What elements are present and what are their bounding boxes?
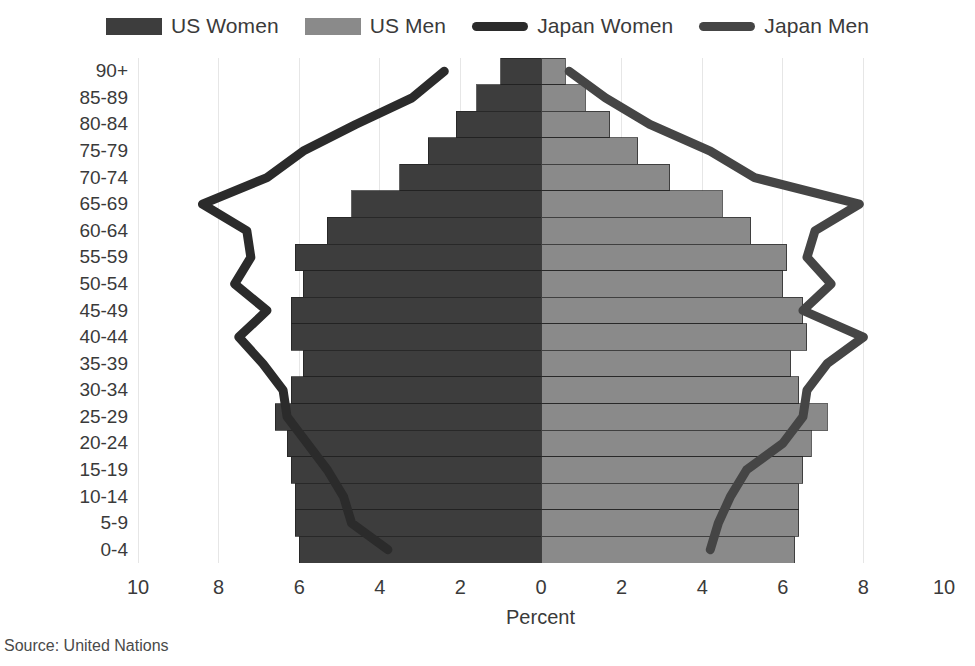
legend-swatch-line-icon <box>472 22 528 31</box>
y-axis-tick-label: 80-84 <box>34 113 128 135</box>
y-axis-labels: 90+85-8980-8475-7970-7465-6960-6455-5950… <box>34 58 128 563</box>
y-axis-tick-label: 0-4 <box>34 539 128 561</box>
y-axis-tick-label: 60-64 <box>34 220 128 242</box>
x-axis-tick-label: 8 <box>858 576 869 599</box>
bar-us-women <box>299 536 541 563</box>
y-axis-tick-label: 30-34 <box>34 379 128 401</box>
bar-us-women <box>400 164 541 191</box>
bar-us-men <box>541 58 565 85</box>
y-axis-tick-label: 90+ <box>34 60 128 82</box>
bar-us-women <box>291 297 541 324</box>
bar-us-women <box>295 244 541 271</box>
y-axis-tick-label: 45-49 <box>34 300 128 322</box>
bar-us-men <box>541 324 807 351</box>
y-axis-tick-label: 15-19 <box>34 459 128 481</box>
bar-us-women <box>477 85 541 112</box>
bar-us-men <box>541 244 787 271</box>
bar-us-women <box>303 350 541 377</box>
bar-us-men <box>541 536 795 563</box>
y-axis-tick-label: 70-74 <box>34 167 128 189</box>
legend-swatch-bar-icon <box>106 18 162 35</box>
bar-us-men <box>541 164 670 191</box>
bar-us-men <box>541 350 791 377</box>
bar-us-men <box>541 191 722 218</box>
y-axis-tick-label: 35-39 <box>34 353 128 375</box>
bar-us-men <box>541 510 799 537</box>
legend-label: Japan Women <box>537 14 673 38</box>
x-axis-title: Percent <box>0 606 975 629</box>
x-axis-title-text: Percent <box>506 606 575 628</box>
bar-us-women <box>275 404 541 431</box>
bars-group <box>275 58 827 563</box>
bar-us-men <box>541 111 610 138</box>
x-axis-tick-label: 4 <box>697 576 708 599</box>
bar-us-women <box>291 324 541 351</box>
x-axis-tick-label: 2 <box>616 576 627 599</box>
y-axis-tick-label: 50-54 <box>34 273 128 295</box>
legend-label: US Women <box>171 14 279 38</box>
chart-legend: US WomenUS MenJapan WomenJapan Men <box>0 14 975 38</box>
legend-item-us-women[interactable]: US Women <box>106 14 279 38</box>
bar-us-women <box>291 377 541 404</box>
x-axis-tick-label: 2 <box>455 576 466 599</box>
y-axis-tick-label: 65-69 <box>34 193 128 215</box>
bar-us-men <box>541 404 827 431</box>
x-axis-labels: 1086420246810 <box>0 576 975 606</box>
y-axis-tick-label: 55-59 <box>34 246 128 268</box>
bar-us-women <box>295 483 541 510</box>
bar-us-men <box>541 138 638 165</box>
bar-us-men <box>541 217 751 244</box>
bar-us-women <box>428 138 541 165</box>
y-axis-tick-label: 85-89 <box>34 87 128 109</box>
x-axis-tick-label: 8 <box>213 576 224 599</box>
y-axis-tick-label: 25-29 <box>34 406 128 428</box>
legend-item-japan-men[interactable]: Japan Men <box>699 14 869 38</box>
x-axis-tick-label: 6 <box>294 576 305 599</box>
plot-svg <box>138 58 944 563</box>
legend-swatch-line-icon <box>699 22 755 31</box>
y-axis-tick-label: 10-14 <box>34 486 128 508</box>
y-axis-tick-label: 5-9 <box>34 512 128 534</box>
bar-us-men <box>541 297 803 324</box>
bar-us-women <box>287 430 541 457</box>
bar-us-women <box>352 191 541 218</box>
bar-us-women <box>327 217 541 244</box>
legend-label: Japan Men <box>764 14 869 38</box>
legend-swatch-bar-icon <box>305 18 361 35</box>
y-axis-tick-label: 20-24 <box>34 432 128 454</box>
x-axis-tick-label: 0 <box>535 576 546 599</box>
bar-us-men <box>541 85 585 112</box>
bar-us-women <box>303 271 541 298</box>
bar-us-men <box>541 483 799 510</box>
source-note: Source: United Nations <box>4 637 169 655</box>
y-axis-tick-label: 75-79 <box>34 140 128 162</box>
x-axis-tick-label: 10 <box>127 576 149 599</box>
plot-area <box>138 58 944 563</box>
legend-item-us-men[interactable]: US Men <box>305 14 446 38</box>
bar-us-women <box>295 510 541 537</box>
legend-item-japan-women[interactable]: Japan Women <box>472 14 673 38</box>
bar-us-women <box>456 111 541 138</box>
y-axis-tick-label: 40-44 <box>34 326 128 348</box>
x-axis-tick-label: 10 <box>933 576 955 599</box>
bar-us-women <box>501 58 541 85</box>
legend-label: US Men <box>370 14 446 38</box>
x-axis-tick-label: 4 <box>374 576 385 599</box>
bar-us-men <box>541 377 799 404</box>
x-axis-tick-label: 6 <box>777 576 788 599</box>
population-pyramid-chart: US WomenUS MenJapan WomenJapan Men 90+85… <box>0 0 975 666</box>
bar-us-men <box>541 271 783 298</box>
